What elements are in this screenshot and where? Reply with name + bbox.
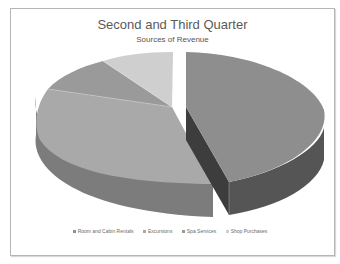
chart-legend: Room and Cabin Rentals Excursions Spa Se… bbox=[0, 228, 340, 234]
legend-swatch-icon bbox=[143, 230, 146, 233]
legend-item-spa-services[interactable]: Spa Services bbox=[182, 228, 216, 234]
legend-swatch-icon bbox=[182, 230, 185, 233]
pie-plot bbox=[0, 0, 340, 264]
legend-item-room-and-cabin-rentals[interactable]: Room and Cabin Rentals bbox=[73, 228, 134, 234]
legend-item-shop-purchases[interactable]: Shop Purchases bbox=[226, 228, 268, 234]
legend-item-excursions[interactable]: Excursions bbox=[143, 228, 172, 234]
legend-swatch-icon bbox=[73, 230, 76, 233]
legend-swatch-icon bbox=[226, 230, 229, 233]
